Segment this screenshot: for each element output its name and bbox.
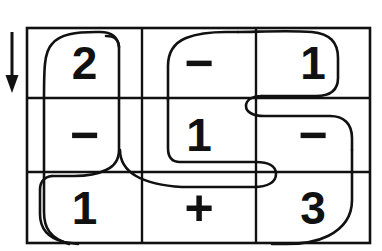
cell-r1c2: − bbox=[142, 28, 256, 98]
cell-r1c3: 1 bbox=[256, 28, 370, 98]
cell-r2c3: − bbox=[256, 98, 370, 172]
cell-r2c1: − bbox=[27, 98, 142, 172]
cell-r2c2: 1 bbox=[142, 98, 256, 172]
cell-r1c1: 2 bbox=[27, 28, 142, 98]
cell-r3c3: 3 bbox=[256, 172, 370, 243]
figure-canvas: 2 − 1 − 1 − 1 + 3 bbox=[0, 0, 382, 251]
cell-r3c1: 1 bbox=[27, 172, 142, 243]
cell-r3c2: + bbox=[142, 172, 256, 243]
direction-arrow-icon bbox=[6, 32, 19, 93]
